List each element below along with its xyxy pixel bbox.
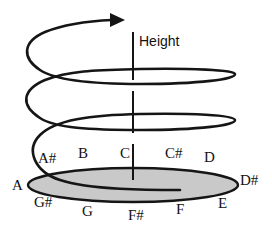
pitch-label-g: G (82, 203, 93, 219)
pitch-label-c-sharp: C# (165, 145, 183, 161)
pitch-label-a: A (12, 177, 23, 193)
pitch-label-e: E (218, 195, 227, 211)
pitch-label-f: F (176, 201, 184, 217)
height-label: Height (139, 33, 180, 49)
pitch-label-g-sharp: G# (34, 194, 53, 210)
pitch-helix-diagram: Height A A# B C C# D D# E F F# G G# (0, 0, 272, 230)
pitch-label-d-sharp: D# (240, 172, 259, 188)
pitch-label-a-sharp: A# (38, 150, 57, 166)
pitch-label-c: C (120, 145, 130, 161)
pitch-label-f-sharp: F# (128, 207, 144, 223)
pitch-label-d: D (204, 149, 215, 165)
pitch-label-b: B (78, 145, 88, 161)
arrow-head-icon (110, 13, 125, 27)
